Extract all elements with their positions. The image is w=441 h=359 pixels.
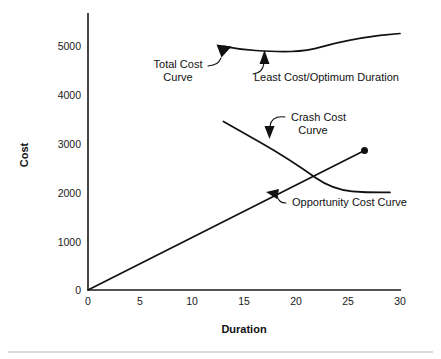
y-tick-label-4000: 4000 — [58, 89, 82, 101]
y-tick-label-5000: 5000 — [58, 40, 82, 52]
y-tick-label-0: 0 — [75, 284, 81, 296]
x-axis-title: Duration — [221, 323, 267, 335]
x-tick-label-20: 20 — [290, 295, 302, 307]
annotation-crash-cost-curve: Crash Cost Curve — [265, 111, 347, 139]
y-tick-label-3000: 3000 — [58, 138, 82, 150]
annotation-arrowhead-crash-cost-curve — [265, 126, 275, 139]
y-axis-title: Cost — [18, 142, 30, 167]
annotation-leader-crash-cost-curve — [270, 117, 285, 126]
annotation-leader-opportunity-cost-curve — [277, 196, 286, 203]
annotation-label-least-cost-optimum-duration: Least Cost/Optimum Duration — [254, 71, 399, 83]
annotation-label-total-cost-curve-line1: Total Cost — [154, 58, 203, 70]
x-tick-labels: 0 5 10 15 20 25 30 — [85, 295, 406, 307]
x-tick-label-25: 25 — [342, 295, 354, 307]
y-tick-labels: 0 1000 2000 3000 4000 5000 — [58, 40, 82, 296]
x-tick-label-15: 15 — [238, 295, 250, 307]
x-tick-label-0: 0 — [85, 295, 91, 307]
annotation-arrowhead-least-cost-optimum-duration — [260, 50, 270, 64]
annotation-label-crash-cost-curve-line1: Crash Cost — [291, 111, 346, 123]
x-tick-label-10: 10 — [186, 295, 198, 307]
annotation-label-total-cost-curve-line2: Curve — [163, 71, 192, 83]
annotation-total-cost-curve: Total Cost Curve — [154, 45, 232, 84]
annotation-label-opportunity-cost-curve: Opportunity Cost Curve — [292, 196, 407, 208]
cost-duration-chart-figure: 0 1000 2000 3000 4000 5000 0 5 10 15 20 … — [0, 0, 441, 359]
series-opportunity-cost-curve — [88, 150, 365, 290]
x-tick-label-5: 5 — [137, 295, 143, 307]
y-tick-label-2000: 2000 — [58, 187, 82, 199]
axes-group — [88, 13, 401, 290]
opportunity-cost-endpoint-marker — [361, 147, 368, 154]
annotation-leader-total-cost-curve — [208, 58, 221, 66]
annotation-least-cost-optimum-duration: Least Cost/Optimum Duration — [253, 50, 399, 83]
annotation-label-crash-cost-curve-line2: Curve — [298, 124, 327, 136]
series-total-cost-curve — [223, 34, 400, 52]
y-tick-label-1000: 1000 — [58, 236, 82, 248]
chart-canvas: 0 1000 2000 3000 4000 5000 0 5 10 15 20 … — [0, 0, 441, 359]
x-tick-label-30: 30 — [394, 295, 406, 307]
annotation-arrowhead-total-cost-curve — [217, 45, 232, 58]
